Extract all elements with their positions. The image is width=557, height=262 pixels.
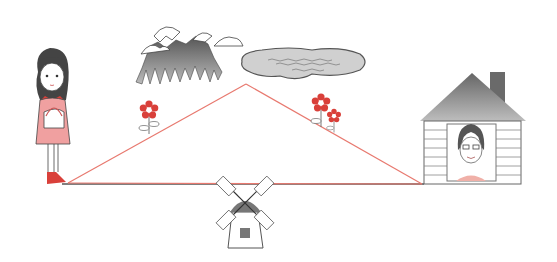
flower-icon xyxy=(139,100,159,134)
lake-icon xyxy=(242,48,365,79)
flowers-icon xyxy=(311,93,341,132)
house-icon xyxy=(420,72,526,184)
route-lines xyxy=(68,84,422,184)
scene-canvas xyxy=(0,0,557,262)
girl-icon xyxy=(36,48,70,184)
windmill-icon xyxy=(216,176,274,248)
mountains-icon xyxy=(136,27,243,84)
